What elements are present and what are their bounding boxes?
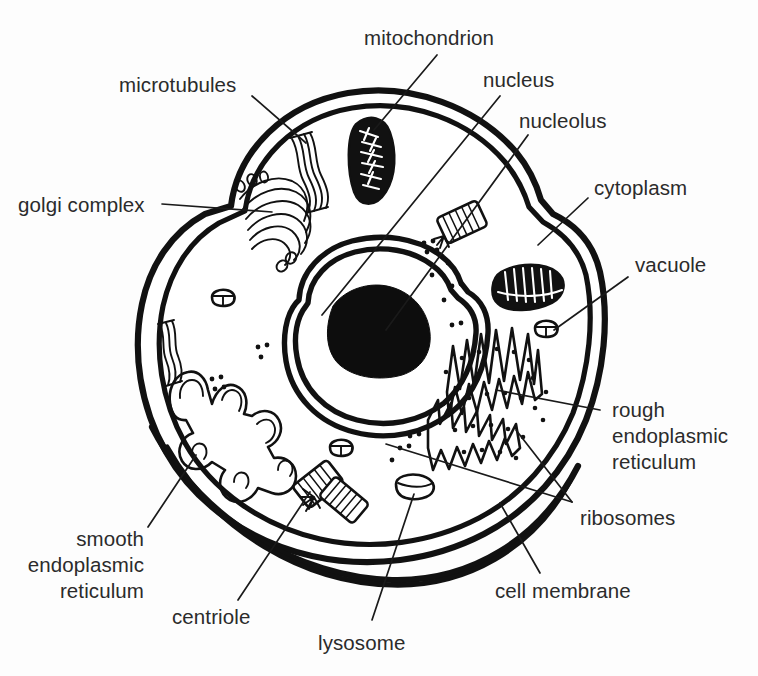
label-cytoplasm: cytoplasm	[594, 176, 687, 199]
label-smooth-er-line1: smooth	[76, 527, 144, 550]
label-vacuole: vacuole	[635, 253, 706, 276]
label-smooth-endoplasmic-reticulum: smooth endoplasmic reticulum	[28, 527, 144, 602]
mitochondrion	[349, 118, 395, 204]
label-rough-er-line2: endoplasmic	[612, 424, 728, 447]
label-nucleus: nucleus	[483, 68, 554, 91]
label-cell-membrane: cell membrane	[495, 579, 631, 602]
label-smooth-er-line2: endoplasmic	[28, 553, 144, 576]
mitochondrion	[492, 265, 563, 311]
animal-cell-illustration: mitochondrion microtubules nucleus nucle…	[0, 0, 758, 676]
cell-diagram: mitochondrion microtubules nucleus nucle…	[0, 0, 758, 676]
label-smooth-er-line3: reticulum	[60, 579, 144, 602]
label-mitochondrion: mitochondrion	[364, 26, 494, 49]
label-centriole: centriole	[172, 605, 250, 628]
label-nucleolus: nucleolus	[519, 109, 607, 132]
label-ribosomes: ribosomes	[580, 506, 675, 529]
label-lysosome: lysosome	[318, 631, 405, 654]
label-microtubules: microtubules	[119, 73, 236, 96]
label-rough-er-line3: reticulum	[612, 450, 696, 473]
label-rough-endoplasmic-reticulum: rough endoplasmic reticulum	[612, 398, 728, 473]
label-golgi-complex: golgi complex	[18, 193, 145, 216]
label-rough-er-line1: rough	[612, 398, 665, 421]
